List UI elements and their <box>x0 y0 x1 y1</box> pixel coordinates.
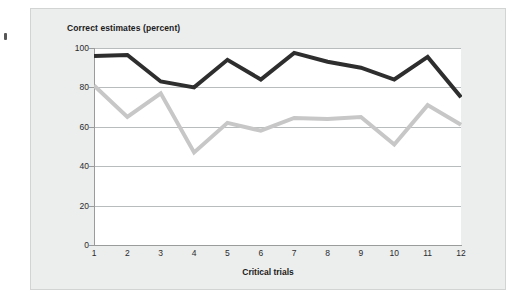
chart-panel-inner: Correct estimates (percent) 020406080100… <box>31 9 505 289</box>
y-axis-tick-mark <box>89 245 94 246</box>
y-axis-tick-label: 20 <box>80 201 89 211</box>
screenshot-root: Correct estimates (percent) 020406080100… <box>0 0 528 308</box>
y-axis-tick-mark <box>89 127 94 128</box>
x-axis-tick-label: 4 <box>192 248 197 258</box>
y-axis-tick-mark <box>89 206 94 207</box>
series-line-dark-series <box>94 53 461 97</box>
x-axis-tick-labels: 123456789101112 <box>94 247 461 261</box>
y-axis-tick-mark <box>89 166 94 167</box>
x-axis-tick-label: 1 <box>92 248 97 258</box>
x-axis-tick-label: 6 <box>258 248 263 258</box>
y-axis-tick-label: 80 <box>80 82 89 92</box>
scan-artifact-mark <box>4 33 7 40</box>
y-axis-tick-label: 100 <box>75 43 89 53</box>
x-axis-tick-label: 11 <box>423 248 432 258</box>
y-axis-tick-label: 60 <box>80 122 89 132</box>
x-axis-tick-label: 7 <box>292 248 297 258</box>
chart-title: Correct estimates (percent) <box>67 23 180 33</box>
y-axis-tick-mark <box>89 87 94 88</box>
x-axis-tick-label: 8 <box>325 248 330 258</box>
y-axis-tick-label: 40 <box>80 161 89 171</box>
x-axis-tick-label: 12 <box>456 248 465 258</box>
y-axis-tick-labels: 020406080100 <box>56 48 89 245</box>
data-series-layer <box>94 48 462 246</box>
x-axis-tick-label: 10 <box>390 248 399 258</box>
x-axis-title: Critical trials <box>31 267 505 277</box>
y-axis-tick-mark <box>89 48 94 49</box>
chart-panel: Correct estimates (percent) 020406080100… <box>30 8 506 290</box>
x-axis-tick-label: 9 <box>359 248 364 258</box>
series-line-light-series <box>94 85 461 152</box>
x-axis-tick-label: 2 <box>125 248 130 258</box>
x-axis-tick-label: 3 <box>158 248 163 258</box>
x-axis-tick-label: 5 <box>225 248 230 258</box>
